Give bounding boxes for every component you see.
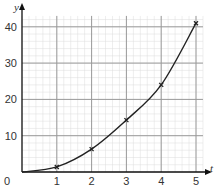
x-tick-label: 4 [158, 175, 164, 187]
y-tick-label: 10 [5, 130, 17, 142]
data-curve [22, 23, 196, 172]
minor-grid [22, 16, 203, 172]
y-axis-label: y [13, 1, 19, 13]
line-chart: 01234510203040 y t [0, 0, 215, 188]
x-axis-label: t [210, 162, 214, 174]
x-tick-label: 2 [89, 175, 95, 187]
axes [19, 3, 212, 175]
x-tick-label: 3 [123, 175, 129, 187]
x-tick-label: 5 [193, 175, 199, 187]
tick-labels: 01234510203040 [4, 21, 199, 187]
curve-line [22, 23, 196, 172]
y-axis-arrow-icon [19, 3, 25, 10]
x-tick-label: 1 [54, 175, 60, 187]
y-tick-label: 40 [5, 21, 17, 33]
y-tick-label: 30 [5, 57, 17, 69]
x-tick-label: 0 [4, 175, 10, 187]
y-tick-label: 20 [5, 93, 17, 105]
